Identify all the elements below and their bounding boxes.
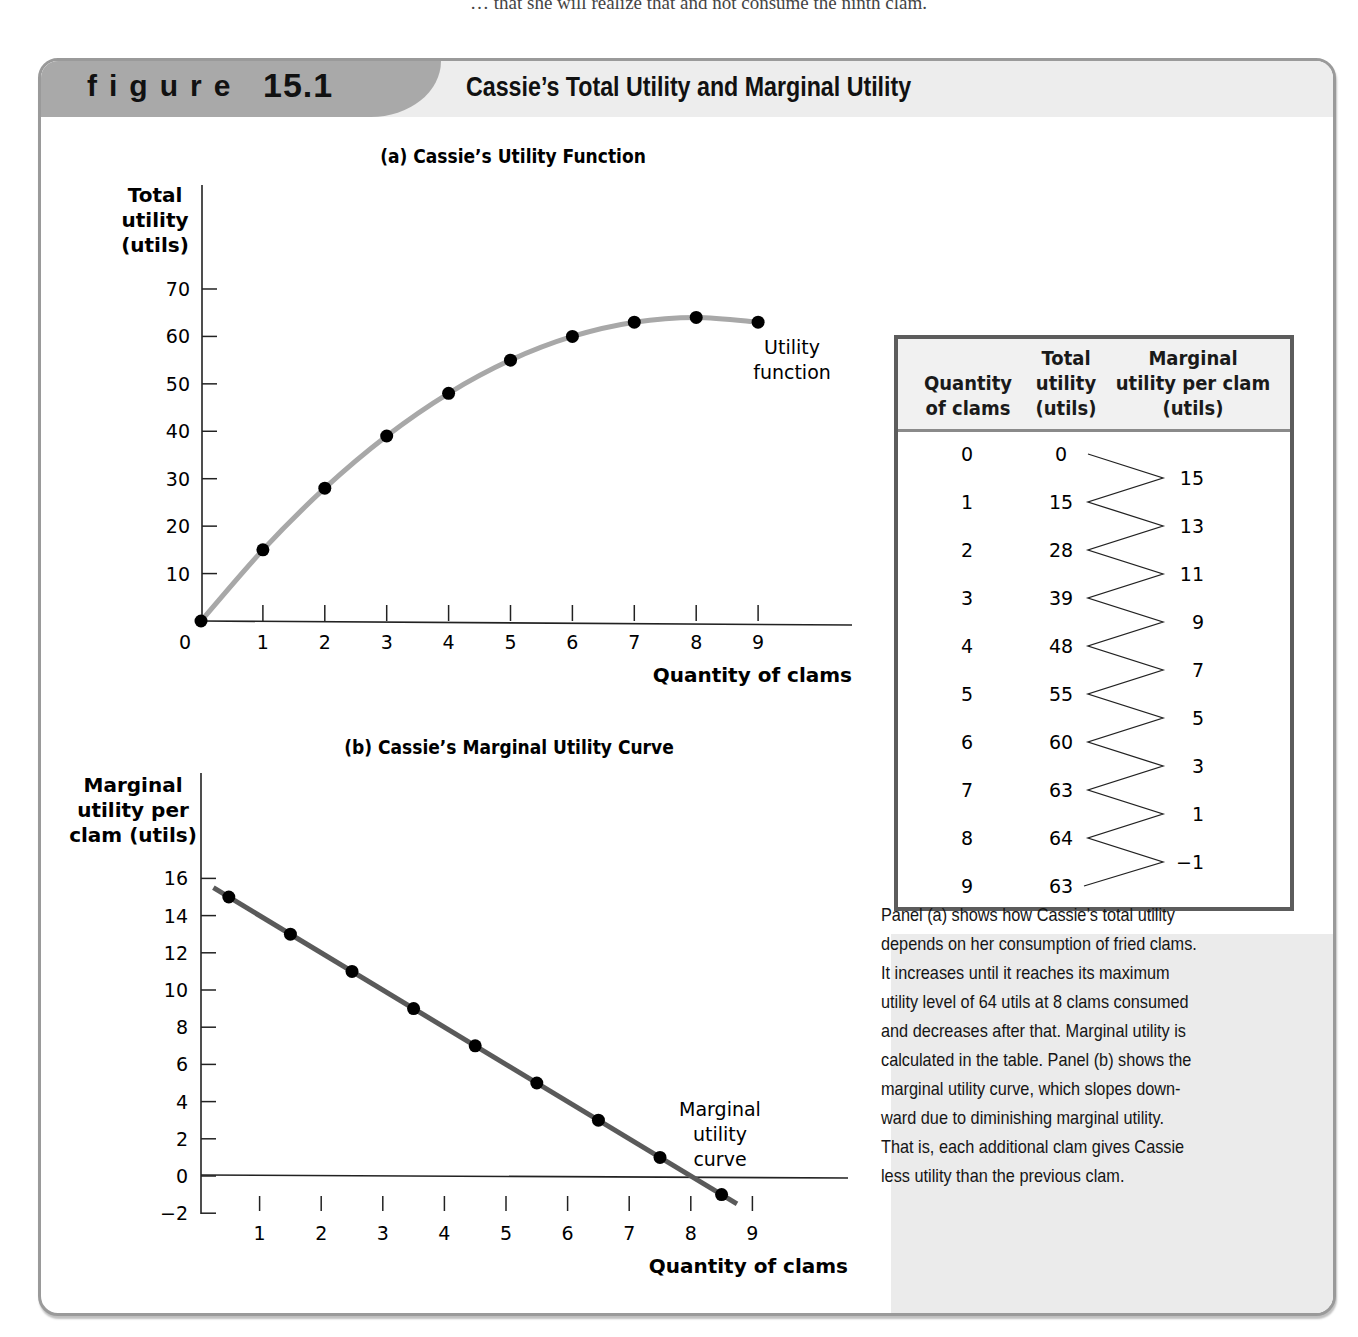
x-tick-label: 4	[443, 631, 455, 653]
cell-marginal: 15	[1180, 467, 1204, 489]
caption-line: depends on her consumption of fried clam…	[881, 929, 1259, 958]
data-point	[566, 330, 579, 343]
x-tick-label: 5	[504, 631, 516, 653]
data-point	[690, 311, 703, 324]
cell-total: 39	[1049, 587, 1073, 609]
data-point	[530, 1077, 543, 1090]
cell-quantity: 9	[961, 875, 973, 897]
y-tick-label: 50	[166, 373, 190, 395]
y-tick-label: 30	[166, 468, 190, 490]
data-point	[346, 965, 359, 978]
curve-label-line: curve	[693, 1148, 746, 1170]
curve-label-line: function	[753, 361, 831, 383]
x-tick-label: 8	[685, 1222, 697, 1244]
x-tick-label: 1	[257, 631, 269, 653]
data-point	[504, 354, 517, 367]
x-tick-label: 0	[179, 631, 191, 653]
data-point	[442, 387, 455, 400]
cell-total: 63	[1049, 875, 1073, 897]
zigzag-connector	[1084, 454, 1163, 886]
cell-marginal: 11	[1180, 563, 1204, 585]
data-point	[318, 482, 331, 495]
utility-function-curve	[201, 317, 758, 621]
x-tick-label: 7	[623, 1222, 635, 1244]
cell-total: 15	[1049, 491, 1073, 513]
x-axis	[202, 621, 852, 625]
cell-marginal: 3	[1192, 755, 1204, 777]
x-tick-label: 2	[315, 1222, 327, 1244]
cell-total: 60	[1049, 731, 1073, 753]
panel-b-title: (b) Cassie’s Marginal Utility Curve	[344, 736, 674, 758]
utility-function-label: Utility function	[753, 336, 831, 383]
cell-total: 55	[1049, 683, 1073, 705]
cell-total: 63	[1049, 779, 1073, 801]
x-tick-label: 8	[690, 631, 702, 653]
x-tick-label: 3	[377, 1222, 389, 1244]
ylabel-line: Marginal	[83, 773, 182, 797]
panel-a-x-ticks: 0123456789	[179, 605, 764, 653]
data-point	[469, 1039, 482, 1052]
cell-quantity: 5	[961, 683, 973, 705]
data-point	[752, 316, 765, 329]
cell-total: 28	[1049, 539, 1073, 561]
y-tick-label: 20	[166, 515, 190, 537]
panel-b-y-ticks: 1614121086420−2	[160, 867, 216, 1224]
x-tick-label: 3	[381, 631, 393, 653]
data-point	[284, 928, 297, 941]
ylabel-line: (utils)	[121, 233, 189, 257]
y-tick-label: −2	[160, 1202, 188, 1224]
table-body: 0011522833944855566076386496315131197531…	[898, 339, 1290, 907]
x-tick-label: 2	[319, 631, 331, 653]
caption-line: It increases until it reaches its maximu…	[881, 958, 1259, 987]
cell-quantity: 6	[961, 731, 973, 753]
cell-quantity: 2	[961, 539, 973, 561]
y-tick-label: 12	[164, 942, 188, 964]
cell-marginal: 9	[1192, 611, 1204, 633]
y-tick-label: 4	[176, 1091, 188, 1113]
cell-quantity: 7	[961, 779, 973, 801]
x-tick-label: 9	[752, 631, 764, 653]
cell-marginal: 1	[1192, 803, 1204, 825]
panel-b-xlabel: Quantity of clams	[649, 1254, 848, 1278]
caption-line: Panel (a) shows how Cassie’s total utili…	[881, 900, 1259, 929]
x-tick-label: 7	[628, 631, 640, 653]
panel-a: (a) Cassie’s Utility Function Total util…	[121, 145, 852, 687]
y-tick-label: 10	[164, 979, 188, 1001]
cell-quantity: 4	[961, 635, 973, 657]
cell-quantity: 1	[961, 491, 973, 513]
panel-b-ylabel: Marginal utility per clam (utils)	[69, 773, 197, 847]
curve-label-line: Marginal	[679, 1098, 761, 1120]
data-point	[380, 430, 393, 443]
caption-line: calculated in the table. Panel (b) shows…	[881, 1045, 1259, 1074]
y-tick-label: 70	[166, 278, 190, 300]
panel-b: (b) Cassie’s Marginal Utility Curve Marg…	[69, 736, 848, 1278]
y-tick-label: 2	[176, 1128, 188, 1150]
x-axis-zero-line	[201, 1175, 848, 1178]
cell-quantity: 3	[961, 587, 973, 609]
cell-marginal: 5	[1192, 707, 1204, 729]
utility-points	[195, 311, 765, 628]
data-point	[592, 1114, 605, 1127]
cell-marginal: −1	[1176, 851, 1204, 873]
panel-a-ylabel: Total utility (utils)	[121, 183, 189, 257]
cell-total: 64	[1049, 827, 1073, 849]
x-tick-label: 1	[254, 1222, 266, 1244]
panel-a-xlabel: Quantity of clams	[653, 663, 852, 687]
x-tick-label: 6	[566, 631, 578, 653]
y-tick-label: 6	[176, 1053, 188, 1075]
cell-marginal: 7	[1192, 659, 1204, 681]
ylabel-line: Total	[128, 183, 183, 207]
x-tick-label: 5	[500, 1222, 512, 1244]
data-point	[407, 1002, 420, 1015]
data-point	[628, 316, 641, 329]
data-point	[715, 1188, 728, 1201]
caption-line: utility level of 64 utils at 8 clams con…	[881, 987, 1259, 1016]
curve-label-line: utility	[693, 1123, 747, 1145]
y-tick-label: 0	[176, 1165, 188, 1187]
ylabel-line: utility	[122, 208, 189, 232]
cell-total: 0	[1055, 443, 1067, 465]
x-tick-label: 4	[438, 1222, 450, 1244]
data-point	[195, 615, 208, 628]
x-tick-label: 6	[562, 1222, 574, 1244]
x-tick-label: 9	[746, 1222, 758, 1244]
